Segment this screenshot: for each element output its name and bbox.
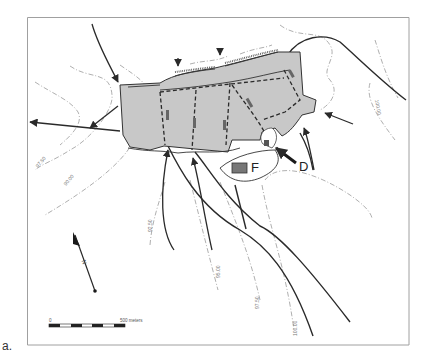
panel-label: a. — [2, 339, 12, 353]
contour-label: 97.50 — [254, 296, 260, 309]
label-f: F — [251, 160, 259, 175]
contour-label: 90.00 — [62, 173, 75, 187]
contour-label: 100.00 — [374, 99, 383, 115]
map-figure: 97.50 90.00 92.50 95.00 97.50 100.00 100… — [0, 0, 429, 362]
contour-label: 100.00 — [292, 320, 298, 336]
scale-bar: 0 500 meters — [49, 318, 143, 327]
north-label: N — [80, 259, 87, 265]
building-f — [232, 163, 247, 173]
feature-f: F — [220, 150, 278, 181]
contour-label: 97.50 — [34, 155, 47, 169]
contour-label: 92.50 — [147, 219, 153, 232]
contour-label: 95.00 — [215, 265, 221, 278]
label-d: D — [299, 159, 308, 174]
map-frame-border — [28, 18, 410, 346]
scale-end-label: 500 meters — [120, 318, 143, 323]
shaded-site-area — [120, 50, 316, 153]
scale-start-label: 0 — [49, 318, 52, 323]
north-arrow: N — [73, 232, 97, 293]
